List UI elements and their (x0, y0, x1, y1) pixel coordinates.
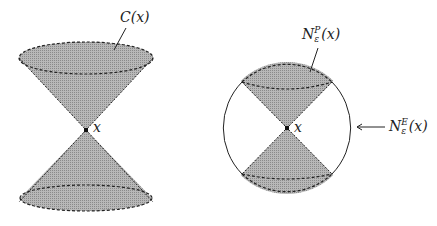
cone-label: C(x) (120, 10, 150, 24)
ball-label-arg: (x) (409, 118, 428, 134)
cap-label-sub: ε (314, 35, 320, 44)
apex-label-left: x (93, 120, 101, 134)
light-cone-figure (19, 28, 153, 211)
cap-label: NPε(x) (302, 26, 340, 44)
ball-label: NEε(x) (389, 118, 428, 136)
ball-label-sub: ε (401, 127, 408, 136)
apex-label-right: x (294, 120, 302, 134)
diagram-canvas (0, 0, 437, 226)
cap-label-arg: (x) (321, 26, 340, 42)
cap-label-base: N (302, 26, 314, 42)
ball-label-base: N (389, 118, 401, 134)
neighborhood-figure (223, 48, 385, 200)
